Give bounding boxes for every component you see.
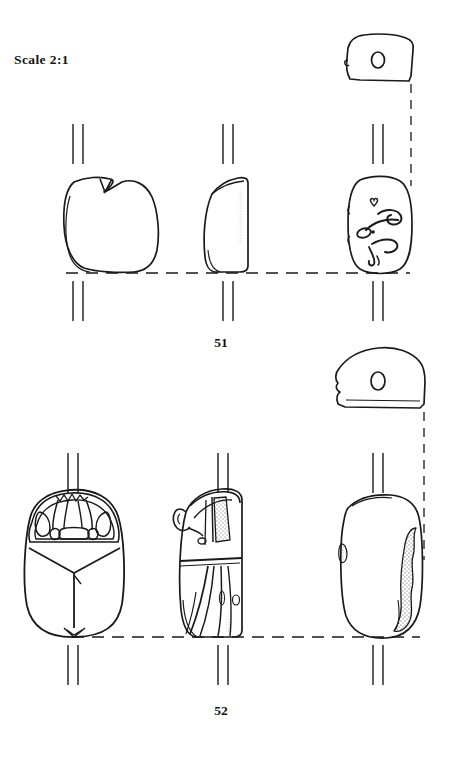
engraving-51 [356, 199, 401, 266]
axis-tick-51-profile-top [223, 124, 233, 164]
figure-51-profile-view [204, 178, 248, 272]
figure-51-section-view [345, 34, 414, 81]
figure-51-base-view [348, 176, 412, 273]
piercing-hole-52 [371, 372, 385, 390]
axis-tick-52-dorsal-bottom [68, 645, 78, 685]
axis-tick-52-profile-bottom [218, 645, 228, 685]
axis-tick-51-profile-bottom [223, 281, 233, 321]
figure-52-base-view [339, 495, 423, 638]
axis-tick-52-profile-top [218, 453, 228, 493]
axis-tick-51-dorsal-bottom [73, 281, 83, 321]
axis-tick-51-base-top [373, 124, 383, 164]
axis-tick-52-dorsal-top [68, 453, 78, 493]
piercing-hole-51 [372, 52, 385, 68]
illustration-plate: Scale 2:1 51 52 [0, 0, 451, 759]
axis-tick-51-base-bottom [373, 281, 383, 321]
axis-tick-52-base-top [373, 453, 383, 493]
axis-tick-52-base-bottom [373, 645, 383, 685]
figure-52-dorsal-view [24, 490, 124, 637]
figure-51-dorsal-view [64, 177, 159, 272]
plate-drawing [0, 0, 451, 759]
axis-tick-51-dorsal-top [73, 124, 83, 164]
figure-52-profile-view [173, 489, 242, 637]
figure-52-section-view [336, 348, 425, 408]
